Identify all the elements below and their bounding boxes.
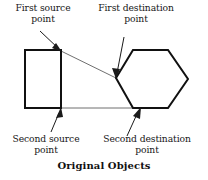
destination-hexagon [116, 50, 188, 108]
source-rectangle [25, 50, 61, 108]
label-first-source-point: First source point [6, 3, 80, 24]
second-source-arrow [51, 107, 63, 132]
second-destination-arrow [127, 107, 141, 136]
figure-caption: Original Objects [0, 160, 208, 171]
first-source-arrow [40, 31, 62, 52]
top-connector-line [61, 51, 116, 78]
original-objects-figure: First source point First destination poi… [0, 0, 208, 180]
label-second-source-point: Second source point [2, 134, 90, 155]
first-destination-arrow [112, 37, 124, 79]
label-second-destination-point: Second destination point [92, 134, 202, 155]
label-first-destination-point: First destination point [84, 3, 188, 24]
